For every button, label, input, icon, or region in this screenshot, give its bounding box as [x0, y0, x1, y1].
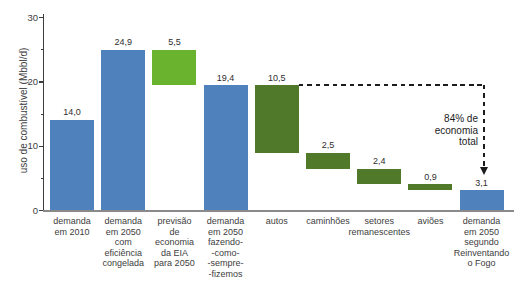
bar [50, 120, 94, 210]
annotation-arrow-down-icon [480, 167, 488, 175]
bar-value-label: 10,5 [255, 73, 299, 83]
plot-area: 010203014,0demanda em 201024,9demanda em… [0, 0, 520, 291]
y-axis-minor-tick [41, 178, 44, 179]
bar [101, 50, 145, 210]
bar [255, 85, 299, 153]
y-axis-line [43, 14, 44, 210]
y-axis-major-tick [39, 146, 44, 147]
bar-value-label: 3,1 [460, 178, 504, 188]
y-axis-minor-tick [41, 49, 44, 50]
bar [357, 169, 401, 184]
x-axis-line [43, 210, 514, 212]
bar [408, 184, 452, 190]
bar [204, 85, 248, 210]
y-axis-minor-tick [41, 114, 44, 115]
bar-value-label: 0,9 [408, 172, 452, 182]
bar-category-label: demanda em 2050 segundo Reinventando o F… [447, 216, 517, 269]
bar [460, 190, 504, 210]
annotation-text: 84% de economia total [338, 113, 478, 148]
annotation-dashed-line-vertical [483, 85, 485, 166]
bar [152, 50, 196, 85]
y-axis-major-tick [39, 210, 44, 211]
bar-value-label: 14,0 [50, 107, 94, 117]
y-axis-tick-label: 20 [12, 76, 38, 87]
y-axis-tick-label: 10 [12, 140, 38, 151]
y-axis-tick-label: 30 [12, 12, 38, 23]
bar [306, 153, 350, 169]
y-axis-major-tick [39, 17, 44, 18]
bar-value-label: 24,9 [101, 37, 145, 47]
waterfall-chart: uso de combustível (Mbbl/d) 010203014,0d… [0, 0, 520, 291]
y-axis-major-tick [39, 81, 44, 82]
bar-value-label: 19,4 [204, 73, 248, 83]
bar-value-label: 2,4 [357, 156, 401, 166]
bar-value-label: 5,5 [152, 37, 196, 47]
y-axis-tick-label: 0 [12, 205, 38, 216]
annotation-dashed-line-horizontal [299, 84, 486, 86]
